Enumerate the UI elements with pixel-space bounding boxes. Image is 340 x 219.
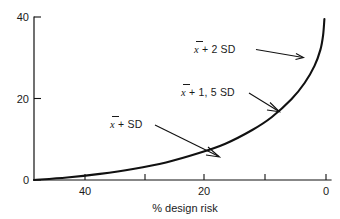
chart-figure: 40 20 0 40 20 0 % design risk x + 2 SD (0, 0, 340, 219)
annotation-1sd-variable: x (109, 119, 115, 130)
chart-background (0, 0, 340, 219)
x-tick-label-20: 20 (198, 185, 210, 197)
annotation-1sd-label: x + SD (109, 118, 143, 130)
annotation-15sd-label: x + 1, 5 SD (180, 86, 235, 98)
annotation-15sd-rest: + 1, 5 SD (189, 86, 235, 98)
x-tick-label-40: 40 (79, 185, 91, 197)
y-tick-label-40: 40 (17, 11, 29, 23)
design-risk-line-chart: 40 20 0 40 20 0 % design risk x + 2 SD (0, 0, 340, 219)
annotation-1sd-rest: + SD (118, 118, 143, 130)
x-axis-title: % design risk (152, 202, 218, 214)
y-tick-label-0: 0 (23, 174, 29, 186)
annotation-15sd-variable: x (180, 87, 186, 98)
annotation-2sd-label: x + 2 SD (193, 43, 236, 55)
y-tick-label-20: 20 (17, 93, 29, 105)
annotation-2sd-rest: + 2 SD (202, 43, 236, 55)
x-tick-label-0: 0 (323, 185, 329, 197)
annotation-2sd-variable: x (193, 44, 199, 55)
